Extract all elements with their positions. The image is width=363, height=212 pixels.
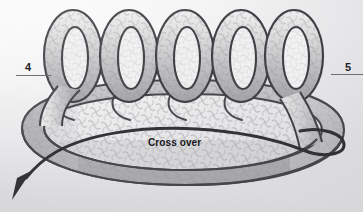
coil-ring-2 xyxy=(100,10,158,102)
page-marker-left-rule xyxy=(16,75,51,76)
coil-ring-5 xyxy=(265,10,323,102)
coil-ring-4 xyxy=(212,10,270,102)
crossover-annotation: Cross over xyxy=(148,137,201,148)
page-marker-right-rule xyxy=(331,74,363,75)
figure-canvas: 4 5 Cross over xyxy=(0,0,363,212)
coil-crossover-illustration xyxy=(0,0,363,212)
coil-ring-1 xyxy=(44,10,102,102)
page-marker-right: 5 xyxy=(345,62,351,73)
coil-ring-3 xyxy=(156,10,214,102)
page-marker-left: 4 xyxy=(25,62,31,73)
